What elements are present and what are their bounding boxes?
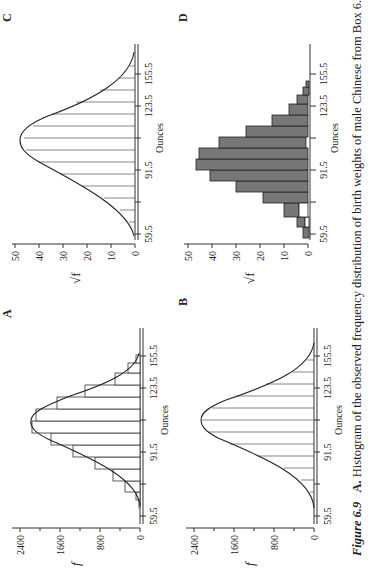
svg-text:800: 800 [269,535,280,550]
panel-b: 0 800 1600 2400 59.5 91.5 123.5 155.5 Ou… [176,284,352,568]
figure-caption: Figure 6.9 A. Histogram of the observed … [350,0,365,556]
svg-text:59.5: 59.5 [318,225,329,243]
svg-text:10: 10 [279,251,290,261]
svg-text:91.5: 91.5 [148,443,159,461]
svg-text:0: 0 [135,535,146,540]
panel-d-ylabel: √f [242,273,258,284]
svg-text:123.5: 123.5 [318,95,329,118]
svg-text:800: 800 [95,535,106,550]
svg-text:30: 30 [231,251,242,261]
panel-d-label: D [176,13,191,22]
panel-a-ylabel: f [68,562,84,566]
caption-text: Histogram of the observed frequency dist… [350,0,364,477]
panel-b-ylabel: f [242,562,258,566]
svg-text:40: 40 [34,251,45,261]
figure-page: 0 800 1600 2400 59.5 91.5 123.5 155.5 Ou… [0,0,372,568]
svg-text:155.5: 155.5 [143,63,154,86]
svg-text:123.5: 123.5 [143,95,154,118]
svg-text:50: 50 [183,251,194,261]
caption-panel-ref: A. [350,480,364,492]
svg-text:10: 10 [106,251,117,261]
panel-c-ylabel: √f [68,273,84,284]
svg-text:91.5: 91.5 [318,161,329,179]
svg-text:0: 0 [303,251,314,256]
svg-text:123.5: 123.5 [148,377,159,400]
svg-text:Ounces: Ounces [329,123,340,153]
svg-text:123.5: 123.5 [322,377,333,400]
svg-text:59.5: 59.5 [322,507,333,525]
svg-text:0: 0 [130,251,141,256]
svg-text:Ounces: Ounces [333,405,344,435]
svg-text:30: 30 [58,251,69,261]
panel-c-label: C [0,13,15,22]
svg-text:0: 0 [309,535,320,540]
svg-text:2400: 2400 [15,535,26,555]
svg-text:20: 20 [82,251,93,261]
svg-text:155.5: 155.5 [318,63,329,86]
panel-c-chart: 0 10 20 30 40 50 59.5 91.5 123.5 155.5 O… [0,0,176,284]
svg-text:50: 50 [10,251,21,261]
svg-text:1600: 1600 [55,535,66,555]
svg-text:59.5: 59.5 [143,225,154,243]
panel-d-chart: 0 10 20 30 40 50 59.5 91.5 123.5 155.5 O… [176,0,352,284]
panel-a-label: A [0,309,15,318]
panel-d: 0 10 20 30 40 50 59.5 91.5 123.5 155.5 O… [176,0,352,284]
panel-b-label: B [176,298,191,306]
panel-a-chart: 0 800 1600 2400 59.5 91.5 123.5 155.5 Ou… [0,284,176,568]
svg-text:Ounces: Ounces [159,405,170,435]
svg-text:155.5: 155.5 [148,345,159,368]
svg-text:2400: 2400 [189,535,200,555]
svg-text:Ounces: Ounces [154,123,165,153]
svg-text:40: 40 [207,251,218,261]
panel-a: 0 800 1600 2400 59.5 91.5 123.5 155.5 Ou… [0,284,176,568]
svg-text:59.5: 59.5 [148,507,159,525]
svg-text:20: 20 [255,251,266,261]
figure-number: Figure 6.9 [350,502,364,556]
svg-text:1600: 1600 [229,535,240,555]
svg-text:91.5: 91.5 [322,443,333,461]
panel-c: 0 10 20 30 40 50 59.5 91.5 123.5 155.5 O… [0,0,176,284]
svg-text:155.5: 155.5 [322,345,333,368]
svg-text:91.5: 91.5 [143,161,154,179]
panel-b-chart: 0 800 1600 2400 59.5 91.5 123.5 155.5 Ou… [176,284,352,568]
